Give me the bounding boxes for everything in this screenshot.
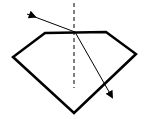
gem-refraction-diagram bbox=[0, 0, 147, 119]
gem-outline bbox=[13, 32, 136, 113]
refracted-ray bbox=[75, 32, 112, 97]
